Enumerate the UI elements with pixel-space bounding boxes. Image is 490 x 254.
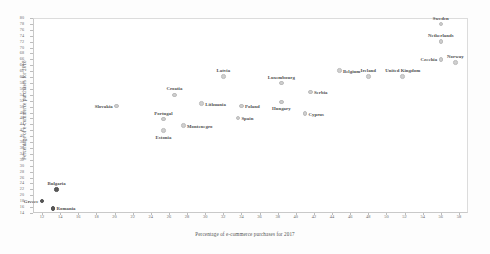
data-point-marker[interactable] bbox=[172, 93, 177, 98]
y-tick-label: 78 bbox=[0, 22, 24, 26]
data-point-label: Norway bbox=[447, 54, 464, 59]
y-tick-mark bbox=[30, 213, 33, 214]
data-point-label: Montenegro bbox=[187, 123, 212, 128]
y-tick-label: 56 bbox=[0, 87, 24, 91]
y-tick-mark bbox=[30, 118, 33, 119]
y-tick-label: 72 bbox=[0, 40, 24, 44]
data-point-label: Belgium bbox=[343, 68, 360, 73]
y-tick-mark bbox=[30, 18, 33, 19]
data-point-marker[interactable] bbox=[279, 81, 284, 86]
data-point-marker[interactable] bbox=[308, 90, 313, 95]
data-point-label: Poland bbox=[245, 104, 260, 109]
data-point-marker[interactable] bbox=[303, 111, 308, 116]
y-tick-mark bbox=[30, 59, 33, 60]
y-tick-label: 54 bbox=[0, 93, 24, 97]
y-tick-mark bbox=[30, 65, 33, 66]
y-tick-label: 64 bbox=[0, 63, 24, 67]
y-tick-mark bbox=[30, 166, 33, 167]
y-tick-label: 24 bbox=[0, 181, 24, 185]
y-tick-label: 76 bbox=[0, 28, 24, 32]
data-point-label: Netherlands bbox=[428, 33, 454, 38]
y-tick-label: 36 bbox=[0, 146, 24, 150]
data-point-marker[interactable] bbox=[161, 117, 166, 122]
y-tick-mark bbox=[30, 24, 33, 25]
y-tick-mark bbox=[30, 154, 33, 155]
data-point-marker[interactable] bbox=[337, 68, 342, 73]
y-tick-mark bbox=[30, 77, 33, 78]
data-point-marker[interactable] bbox=[279, 100, 284, 105]
y-tick-mark bbox=[30, 42, 33, 43]
y-tick-mark bbox=[30, 124, 33, 125]
y-tick-label: 50 bbox=[0, 105, 24, 109]
y-tick-label: 26 bbox=[0, 176, 24, 180]
data-point-label: Serbia bbox=[314, 89, 328, 94]
y-tick-mark bbox=[30, 48, 33, 49]
y-tick-label: 74 bbox=[0, 34, 24, 38]
y-tick-mark bbox=[30, 178, 33, 179]
data-point-label: Cyprus bbox=[308, 111, 324, 116]
data-point-marker[interactable] bbox=[439, 39, 444, 44]
data-point-marker[interactable] bbox=[114, 104, 119, 109]
y-tick-mark bbox=[30, 89, 33, 90]
y-tick-label: 68 bbox=[0, 51, 24, 55]
data-point-label: Ireland bbox=[361, 68, 376, 73]
y-tick-label: 32 bbox=[0, 158, 24, 162]
y-tick-mark bbox=[30, 130, 33, 131]
data-point-marker[interactable] bbox=[221, 74, 226, 79]
y-tick-mark bbox=[30, 195, 33, 196]
y-tick-label: 16 bbox=[0, 205, 24, 209]
y-tick-mark bbox=[30, 136, 33, 137]
y-tick-mark bbox=[30, 30, 33, 31]
data-point-label: Estonia bbox=[156, 135, 172, 140]
y-tick-label: 30 bbox=[0, 164, 24, 168]
data-point-marker[interactable] bbox=[239, 104, 244, 109]
data-point-label: United Kingdom bbox=[385, 68, 420, 73]
y-tick-mark bbox=[30, 83, 33, 84]
data-point-label: Latvia bbox=[217, 68, 231, 73]
data-point-marker[interactable] bbox=[199, 101, 204, 106]
y-tick-label: 46 bbox=[0, 116, 24, 120]
data-point-marker[interactable] bbox=[161, 128, 166, 133]
y-tick-mark bbox=[30, 189, 33, 190]
data-point-marker[interactable] bbox=[366, 74, 371, 79]
y-tick-label: 52 bbox=[0, 99, 24, 103]
data-point-marker[interactable] bbox=[181, 123, 186, 128]
y-tick-mark bbox=[30, 36, 33, 37]
y-tick-label: 58 bbox=[0, 81, 24, 85]
data-point-marker[interactable] bbox=[439, 57, 444, 62]
data-point-label: Sweden bbox=[433, 16, 449, 21]
data-point-marker[interactable] bbox=[453, 60, 458, 65]
y-tick-mark bbox=[30, 148, 33, 149]
y-tick-label: 14 bbox=[0, 211, 24, 215]
y-tick-label: 28 bbox=[0, 170, 24, 174]
y-tick-mark bbox=[30, 160, 33, 161]
y-tick-mark bbox=[30, 95, 33, 96]
y-tick-mark bbox=[30, 207, 33, 208]
y-tick-label: 44 bbox=[0, 122, 24, 126]
y-tick-label: 20 bbox=[0, 193, 24, 197]
y-tick-mark bbox=[30, 201, 33, 202]
data-point-label: Hungary bbox=[272, 106, 291, 111]
data-point-label: Bulgaria bbox=[47, 181, 65, 186]
data-point-marker[interactable] bbox=[51, 206, 56, 211]
y-tick-label: 80 bbox=[0, 16, 24, 20]
x-tick-label: 58 bbox=[447, 214, 471, 219]
data-point-marker[interactable] bbox=[400, 74, 405, 79]
data-point-label: Czechia bbox=[421, 57, 438, 62]
y-tick-mark bbox=[30, 53, 33, 54]
data-point-label: Portugal bbox=[154, 111, 172, 116]
y-tick-label: 66 bbox=[0, 57, 24, 61]
y-tick-mark bbox=[30, 101, 33, 102]
data-point-label: Lithuania bbox=[205, 101, 226, 106]
data-point-marker[interactable] bbox=[54, 187, 59, 192]
data-point-label: Croatia bbox=[166, 86, 182, 91]
y-tick-label: 42 bbox=[0, 128, 24, 132]
x-axis-title: Percentage of e-commerce purchases for 2… bbox=[0, 231, 490, 237]
y-tick-mark bbox=[30, 107, 33, 108]
y-tick-label: 22 bbox=[0, 187, 24, 191]
y-tick-label: 40 bbox=[0, 134, 24, 138]
y-tick-mark bbox=[30, 183, 33, 184]
data-point-label: Spain bbox=[241, 115, 253, 120]
y-tick-label: 18 bbox=[0, 199, 24, 203]
y-tick-label: 60 bbox=[0, 75, 24, 79]
